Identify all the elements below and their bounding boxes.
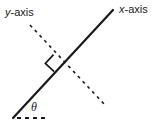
diagram-canvas bbox=[0, 0, 156, 124]
x-axis-label-suffix: -axis bbox=[125, 3, 148, 15]
y-axis-label: y-axis bbox=[5, 6, 34, 18]
x-axis-label: x-axis bbox=[119, 3, 148, 15]
theta-angle-label: θ bbox=[31, 101, 37, 113]
geometry-figure: y-axis x-axis θ bbox=[0, 0, 156, 124]
y-axis-line bbox=[30, 25, 105, 105]
y-axis-label-suffix: -axis bbox=[11, 6, 34, 18]
x-axis-line bbox=[13, 10, 113, 118]
